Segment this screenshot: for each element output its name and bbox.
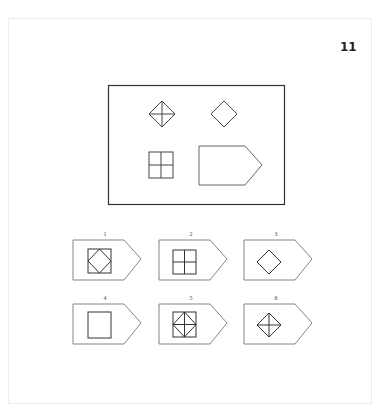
answer-slot-pentagon [199,146,262,185]
option-2[interactable]: 2 [159,231,227,280]
diamond-with-cross-icon [257,313,281,337]
option-label: 1 [104,231,107,237]
diamond-with-cross-icon [149,101,175,127]
option-label: 2 [190,231,193,237]
diamond-icon [211,101,237,127]
option-5[interactable]: 5 [159,295,227,344]
option-1[interactable]: 1 [73,231,141,280]
option-4[interactable]: 4 [73,295,141,344]
prompt-matrix [109,86,285,205]
puzzle-figure: 1 2 3 4 5 [0,0,386,414]
option-label: 5 [190,295,193,301]
square-with-cross-icon [149,152,173,178]
option-6[interactable]: 6 [244,295,312,344]
diamond-icon [257,250,281,274]
square-with-inscribed-diamond-icon [88,249,111,273]
square-with-cross-icon [173,250,196,274]
square-icon [88,312,111,338]
option-label: 4 [104,295,107,301]
option-label: 3 [275,231,278,237]
option-label: 6 [275,295,278,301]
option-3[interactable]: 3 [244,231,312,280]
square-with-inscribed-diamond-and-cross-icon [173,312,196,337]
